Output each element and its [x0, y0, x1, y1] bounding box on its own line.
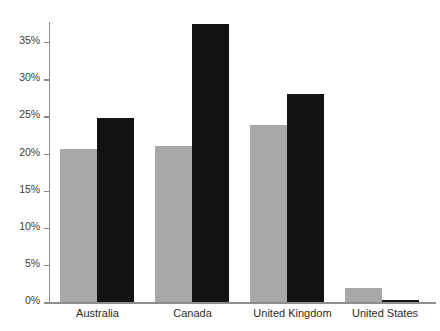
bar-chart: 0% 5% 10% 15% 20% 25% 30% 35% — [0, 0, 440, 331]
x-label-united-states: United States — [340, 307, 430, 319]
plot-area — [0, 0, 440, 331]
bar-canada-series-2 — [192, 24, 229, 302]
x-label-australia: Australia — [60, 307, 135, 319]
bar-canada-series-1 — [155, 146, 192, 302]
x-label-canada: Canada — [155, 307, 230, 319]
x-label-united-kingdom: United Kingdom — [240, 307, 345, 319]
bar-united-states-series-1 — [345, 288, 382, 302]
bar-australia-series-1 — [60, 149, 97, 302]
bar-australia-series-2 — [97, 118, 134, 302]
x-axis-line — [44, 302, 436, 304]
bar-united-kingdom-series-1 — [250, 125, 287, 302]
bar-united-kingdom-series-2 — [287, 94, 324, 302]
